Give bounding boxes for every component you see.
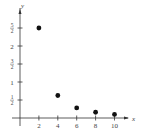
x-tick-label: 2	[37, 122, 41, 130]
y-tick-label: 1	[10, 79, 14, 87]
y-tick-label: 12	[10, 94, 14, 106]
x-axis-arrow-icon	[124, 117, 129, 120]
y-tick-label: 2	[10, 43, 14, 51]
x-tick-label: 4	[56, 122, 60, 130]
data-point	[37, 26, 42, 31]
x-tick-label: 10	[111, 122, 119, 130]
y-tick-label: 52	[10, 22, 14, 34]
svg-text:2: 2	[11, 100, 14, 106]
data-point	[55, 93, 60, 98]
y-axis-label: y	[20, 2, 25, 10]
data-point	[93, 110, 98, 115]
x-tick-label: 8	[94, 122, 98, 130]
y-ticks: 12132252	[10, 22, 23, 106]
x-tick-label: 6	[75, 122, 79, 130]
svg-text:2: 2	[11, 28, 14, 34]
x-axis-label: x	[131, 115, 136, 123]
data-point	[112, 112, 117, 117]
data-points	[37, 26, 117, 117]
data-point	[74, 106, 79, 111]
y-tick-label: 32	[10, 58, 14, 70]
scatter-chart: y x 246810 12132252	[0, 0, 143, 135]
svg-text:2: 2	[11, 64, 14, 70]
